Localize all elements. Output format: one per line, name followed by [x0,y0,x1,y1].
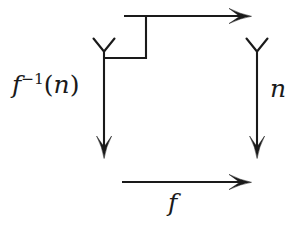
right-arrow-fork-icon [247,39,268,52]
bottom-arrow [122,174,252,189]
diagram-canvas [0,0,304,232]
left-arrow [94,39,115,159]
left-arrow-label-close-paren: ) [70,70,80,99]
left-arrow-label: f−1(n) [12,72,79,97]
top-arrow [124,8,252,23]
left-arrow-label-base: f [12,70,21,99]
bottom-arrow-label: f [168,190,177,215]
left-arrow-label-open-paren: ( [44,70,54,99]
right-arrow [247,39,268,159]
left-arrow-label-argument: n [54,70,70,99]
corner-connector [104,16,146,58]
left-arrow-fork-icon [94,39,115,52]
right-arrow-label: n [270,76,286,101]
diagram-figure: f−1(n) n f [0,0,304,232]
corner-connector-path [104,16,146,58]
left-arrow-label-exponent: −1 [21,70,44,88]
